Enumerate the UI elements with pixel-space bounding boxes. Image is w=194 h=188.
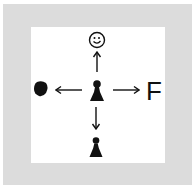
filled-blob-icon (33, 80, 49, 98)
smiley-face-icon (88, 31, 106, 49)
arrow-up-icon (92, 51, 102, 73)
pawn-icon-bottom (88, 136, 104, 158)
pawn-icon (88, 79, 106, 102)
arrow-left-icon (55, 85, 83, 95)
letter-f-label: F (146, 78, 162, 104)
arrow-right-icon (112, 85, 140, 95)
arrow-down-icon (91, 106, 101, 130)
